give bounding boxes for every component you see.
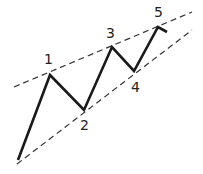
upper-channel-line [14, 12, 192, 87]
wave-label-5: 5 [154, 5, 163, 19]
wave-label-3: 3 [106, 26, 115, 40]
impulse-wave-line [18, 27, 167, 160]
wave-diagram [0, 0, 203, 174]
wave-label-1: 1 [44, 52, 53, 66]
wave-label-4: 4 [131, 80, 140, 94]
wave-label-2: 2 [80, 118, 89, 132]
